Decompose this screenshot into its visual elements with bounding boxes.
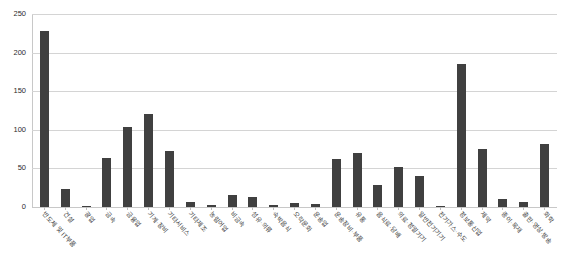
x-label-slot: 일반전기기기 [409, 211, 430, 272]
x-tick-mark [190, 207, 191, 210]
bar-slot [222, 14, 243, 207]
bar-slot [263, 14, 284, 207]
bar[interactable] [248, 197, 257, 207]
y-tick-label-250: 250 [13, 10, 26, 18]
x-label-slot: 운송장비·부품 [326, 211, 347, 272]
bar-slot [34, 14, 55, 207]
bar-slot [534, 14, 555, 207]
bar[interactable] [457, 64, 466, 207]
bar-slot [409, 14, 430, 207]
bar-slot [180, 14, 201, 207]
x-tick-mark [252, 207, 253, 210]
x-label-slot: 정보통신업 [451, 211, 472, 272]
x-tick-mark [482, 207, 483, 210]
bar[interactable] [144, 114, 153, 207]
bar[interactable] [61, 189, 70, 207]
x-tick-mark [461, 207, 462, 210]
y-tick-label-150: 150 [13, 87, 26, 95]
plot-area [32, 14, 557, 207]
bar[interactable] [102, 158, 111, 207]
x-tick-mark [86, 207, 87, 210]
x-axis-label: 금속 [104, 211, 117, 224]
x-tick-mark [544, 207, 545, 210]
bar[interactable] [394, 167, 403, 207]
x-label-slot: 출판·영상·방송 [513, 211, 534, 272]
x-label-slot: 전기가스·수도 [430, 211, 451, 272]
x-tick-mark [273, 207, 274, 210]
bar-chart: 050100150200250 반도체 및 IT부품건설광업금속금융업기계·장비… [0, 0, 571, 272]
bar[interactable] [373, 185, 382, 207]
bar-slot [451, 14, 472, 207]
x-tick-mark [44, 207, 45, 210]
x-axis-label: 유통 [354, 211, 367, 224]
x-tick-mark [211, 207, 212, 210]
bar-slot [117, 14, 138, 207]
bar-slot [201, 14, 222, 207]
x-label-slot: 반도체 및 IT부품 [34, 211, 55, 272]
bar-slot [368, 14, 389, 207]
x-label-slot: 섬유·의류 [242, 211, 263, 272]
x-label-slot: 기타제조 [180, 211, 201, 272]
bar[interactable] [498, 199, 507, 207]
x-label-slot: 제약 [472, 211, 493, 272]
x-axis-label: 건설 [63, 211, 76, 224]
bar-slot [513, 14, 534, 207]
x-tick-mark [294, 207, 295, 210]
bar-slot [305, 14, 326, 207]
bar-slot [76, 14, 97, 207]
x-label-slot: 광업 [76, 211, 97, 272]
bar[interactable] [165, 151, 174, 207]
bar[interactable] [332, 159, 341, 207]
bar-slot [472, 14, 493, 207]
y-tick-label-50: 50 [18, 165, 26, 173]
bar[interactable] [478, 149, 487, 207]
x-label-slot: 숙박음식 [263, 211, 284, 272]
x-axis-label: 화학 [542, 211, 555, 224]
bar[interactable] [123, 127, 132, 207]
y-tick-label-0: 0 [22, 203, 26, 211]
x-tick-mark [377, 207, 378, 210]
x-tick-mark [65, 207, 66, 210]
x-label-slot: 운송업 [305, 211, 326, 272]
bar-series [32, 14, 557, 207]
x-tick-mark [148, 207, 149, 210]
x-label-slot: 기계·장비 [138, 211, 159, 272]
x-tick-mark [106, 207, 107, 210]
x-axis-category-labels: 반도체 및 IT부품건설광업금속금융업기계·장비기타서비스기타제조농림어업비금속… [32, 211, 557, 272]
bar-slot [326, 14, 347, 207]
bar-slot [430, 14, 451, 207]
bar-slot [159, 14, 180, 207]
bar-slot [55, 14, 76, 207]
bar[interactable] [415, 176, 424, 207]
bar-slot [347, 14, 368, 207]
x-tick-mark [169, 207, 170, 210]
bar[interactable] [228, 195, 237, 207]
bar[interactable] [540, 144, 549, 207]
x-label-slot: 비금속 [222, 211, 243, 272]
x-tick-mark [232, 207, 233, 210]
bar-slot [284, 14, 305, 207]
x-label-slot: 유통 [347, 211, 368, 272]
x-tick-mark [315, 207, 316, 210]
x-tick-mark [127, 207, 128, 210]
x-tick-mark [336, 207, 337, 210]
x-label-slot: 오락문화 [284, 211, 305, 272]
bar-slot [97, 14, 118, 207]
y-axis-tick-labels: 050100150200250 [0, 14, 30, 207]
x-tick-mark [502, 207, 503, 210]
x-label-slot: 금속 [97, 211, 118, 272]
y-tick-label-200: 200 [13, 49, 26, 57]
x-label-slot: 기타서비스 [159, 211, 180, 272]
x-label-slot: 농림어업 [201, 211, 222, 272]
x-label-slot: 종이·목재 [493, 211, 514, 272]
x-label-slot: 화학 [534, 211, 555, 272]
x-axis-label: 제약 [479, 211, 492, 224]
x-label-slot: 의료·정밀기기 [388, 211, 409, 272]
bar[interactable] [40, 31, 49, 207]
bar-slot [388, 14, 409, 207]
x-tick-mark [419, 207, 420, 210]
x-tick-mark [523, 207, 524, 210]
x-tick-mark [357, 207, 358, 210]
bar-slot [138, 14, 159, 207]
bar[interactable] [353, 153, 362, 207]
